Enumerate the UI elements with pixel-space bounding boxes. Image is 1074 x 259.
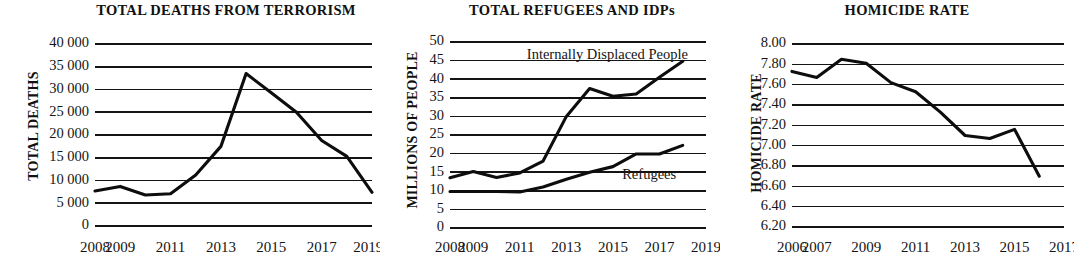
x-axis-tick-label: 2015 [256, 239, 286, 255]
y-axis-tick-label: 7.00 [761, 136, 786, 152]
y-axis-tick-label: 40 [430, 70, 445, 86]
x-axis-tick-label: 2017 [1049, 239, 1074, 255]
chart-panel-total-deaths-from-terrorism: TOTAL DEATHS FROM TERRORISM TOTAL DEATHS… [0, 0, 380, 259]
x-axis-tick-label: 2019* [353, 239, 380, 255]
x-axis-tick-label: 2019 [691, 239, 720, 255]
y-axis-tick-label: 45 [430, 51, 445, 67]
y-axis-tick-label: 15 [430, 163, 445, 179]
y-axis-tick-label: 5 000 [56, 194, 89, 210]
x-axis-tick-label: 2009 [458, 239, 488, 255]
y-axis-tick-label: 5 [437, 200, 444, 216]
y-axis-tick-label: 0 [437, 218, 444, 234]
charts-figure-strip: TOTAL DEATHS FROM TERRORISM TOTAL DEATHS… [0, 0, 1074, 259]
y-axis-tick-label: 20 000 [49, 125, 89, 141]
x-axis-tick-label: 2015 [1000, 239, 1030, 255]
y-axis-tick-label: 7.60 [761, 75, 786, 91]
chart-panel-total-refugees-and-idps: TOTAL REFUGEES AND IDPs MILLIONS OF PEOP… [380, 0, 720, 259]
x-axis-tick-label: 2013 [551, 239, 581, 255]
y-axis-tick-label: 7.20 [761, 116, 786, 132]
x-axis-tick-label: 2011 [156, 239, 185, 255]
y-axis-tick-label: 6.20 [761, 217, 786, 233]
y-axis-tick-label: 6.40 [761, 197, 786, 213]
chart-2-plot: 0510152025303540455020082009201120132015… [380, 0, 720, 259]
x-axis-tick-label: 2013 [950, 239, 980, 255]
chart-1-plot: 05 00010 00015 00020 00025 00030 00035 0… [0, 0, 380, 259]
series-label-refugees: Refugees [622, 166, 676, 182]
x-axis-tick-label: 2011 [505, 239, 534, 255]
y-axis-tick-label: 35 [430, 88, 445, 104]
y-axis-tick-label: 10 [430, 181, 445, 197]
x-axis-tick-label: 2017 [307, 239, 338, 255]
x-axis-tick-label: 2009 [105, 239, 135, 255]
y-axis-tick-label: 10 000 [49, 171, 89, 187]
y-axis-tick-label: 20 [430, 144, 445, 160]
x-axis-tick-label: 2013 [206, 239, 236, 255]
y-axis-tick-label: 6.80 [761, 156, 786, 172]
y-axis-tick-label: 35 000 [49, 57, 89, 73]
data-line-homicide-rate [792, 59, 1039, 176]
y-axis-tick-label: 25 [430, 125, 445, 141]
x-axis-tick-label: 2011 [901, 239, 930, 255]
y-axis-tick-label: 6.60 [761, 177, 786, 193]
series-label-internally-displaced-people: Internally Displaced People [527, 46, 688, 62]
y-axis-tick-label: 30 [430, 107, 445, 123]
chart-3-plot: 6.206.406.606.807.007.207.407.607.808.00… [720, 0, 1074, 259]
y-axis-tick-label: 7.40 [761, 95, 786, 111]
x-axis-tick-label: 2007 [802, 239, 833, 255]
chart-panel-homicide-rate: HOMICIDE RATE HOMICIDE RATE 6.206.406.60… [720, 0, 1074, 259]
y-axis-tick-label: 50 [430, 32, 445, 48]
y-axis-tick-label: 40 000 [49, 34, 89, 50]
y-axis-tick-label: 25 000 [49, 103, 89, 119]
x-axis-tick-label: 2017 [644, 239, 675, 255]
x-axis-tick-label: 2009 [851, 239, 881, 255]
y-axis-tick-label: 0 [82, 216, 89, 232]
y-axis-tick-label: 7.80 [761, 55, 786, 71]
x-axis-tick-label: 2015 [598, 239, 628, 255]
y-axis-tick-label: 8.00 [761, 34, 786, 50]
y-axis-tick-label: 15 000 [49, 148, 89, 164]
y-axis-tick-label: 30 000 [49, 80, 89, 96]
